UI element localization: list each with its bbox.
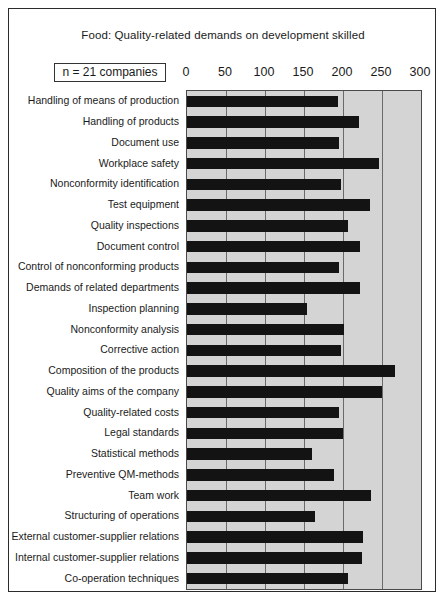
bar-row <box>187 340 421 361</box>
bar <box>187 262 339 274</box>
category-label: Inspection planning <box>9 302 179 314</box>
bar-row <box>187 423 421 444</box>
category-label: Statistical methods <box>9 447 179 459</box>
bar-row <box>187 402 421 423</box>
category-label: External customer-supplier relations <box>9 530 179 542</box>
chart-figure: Food: Quality-related demands on develop… <box>8 8 436 592</box>
category-label: Structuring of operations <box>9 509 179 521</box>
bar <box>187 137 339 149</box>
category-label: Document control <box>9 240 179 252</box>
bar <box>187 199 370 211</box>
x-axis-tick-labels: 050100150200250300 <box>9 64 437 84</box>
bar <box>187 303 307 315</box>
bar <box>187 531 363 543</box>
category-label: Corrective action <box>9 343 179 355</box>
bar <box>187 573 348 585</box>
category-label: Document use <box>9 136 179 148</box>
bar-row <box>187 91 421 112</box>
category-label: Quality aims of the company <box>9 385 179 397</box>
bar-row <box>187 216 421 237</box>
category-label: Demands of related departments <box>9 281 179 293</box>
bar-row <box>187 153 421 174</box>
x-tick-0: 0 <box>166 64 206 81</box>
x-tick-250: 250 <box>361 64 401 81</box>
category-label: Legal standards <box>9 426 179 438</box>
bar <box>187 428 343 440</box>
category-label: Control of nonconforming products <box>9 260 179 272</box>
bar <box>187 490 371 502</box>
bar-row <box>187 485 421 506</box>
bar <box>187 552 362 564</box>
bar-row <box>187 361 421 382</box>
bar-row <box>187 133 421 154</box>
category-label: Team work <box>9 489 179 501</box>
page-title: Food: Quality-related demands on develop… <box>9 29 437 41</box>
x-tick-300: 300 <box>400 64 440 81</box>
bar-row <box>187 506 421 527</box>
plot-area <box>186 90 422 590</box>
bar-row <box>187 527 421 548</box>
category-label: Preventive QM-methods <box>9 468 179 480</box>
bar <box>187 345 341 357</box>
bar-series <box>187 91 421 589</box>
bar-row <box>187 382 421 403</box>
bar <box>187 220 348 232</box>
x-tick-150: 150 <box>283 64 323 81</box>
bar-row <box>187 195 421 216</box>
y-axis-category-labels: Handling of means of productionHandling … <box>9 90 179 588</box>
x-tick-200: 200 <box>322 64 362 81</box>
bar <box>187 96 338 108</box>
category-label: Quality-related costs <box>9 406 179 418</box>
bar-row <box>187 257 421 278</box>
bar <box>187 386 382 398</box>
bar-row <box>187 465 421 486</box>
bar <box>187 407 339 419</box>
bar <box>187 179 341 191</box>
category-label: Handling of means of production <box>9 94 179 106</box>
bar <box>187 511 315 523</box>
category-label: Nonconformity identification <box>9 177 179 189</box>
category-label: Internal customer-supplier relations <box>9 551 179 563</box>
x-tick-50: 50 <box>205 64 245 81</box>
category-label: Test equipment <box>9 198 179 210</box>
bar-row <box>187 174 421 195</box>
bar-row <box>187 299 421 320</box>
category-label: Nonconformity analysis <box>9 323 179 335</box>
bar <box>187 469 334 481</box>
bar-row <box>187 112 421 133</box>
category-label: Workplace safety <box>9 157 179 169</box>
bar-row <box>187 548 421 569</box>
category-label: Quality inspections <box>9 219 179 231</box>
bar <box>187 448 312 460</box>
bar <box>187 324 344 336</box>
bar <box>187 241 360 253</box>
bar <box>187 158 379 170</box>
bar <box>187 282 360 294</box>
bar-row <box>187 319 421 340</box>
x-tick-100: 100 <box>244 64 284 81</box>
category-label: Handling of products <box>9 115 179 127</box>
bar-row <box>187 236 421 257</box>
category-label: Co-operation techniques <box>9 572 179 584</box>
category-label: Composition of the products <box>9 364 179 376</box>
bar <box>187 365 395 377</box>
bar-row <box>187 278 421 299</box>
bar <box>187 116 359 128</box>
bar-row <box>187 568 421 589</box>
bar-row <box>187 444 421 465</box>
